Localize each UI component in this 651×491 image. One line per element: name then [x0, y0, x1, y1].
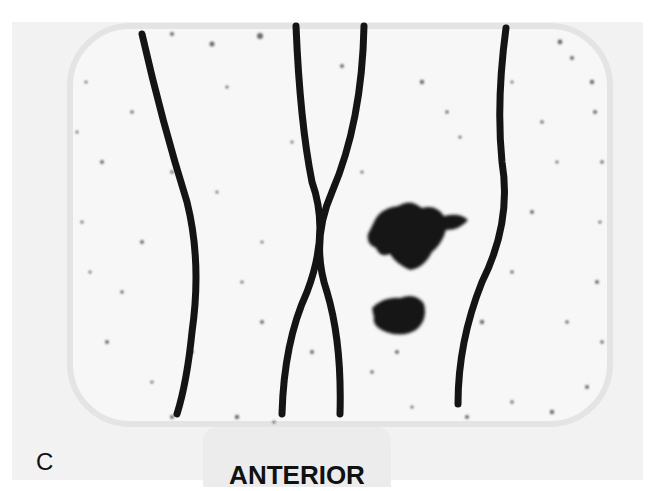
scan-panel: C ANTERIOR: [12, 22, 643, 480]
view-label: ANTERIOR: [203, 460, 391, 491]
panel-letter: C: [36, 448, 53, 476]
scintigraphy-image: [12, 22, 643, 480]
